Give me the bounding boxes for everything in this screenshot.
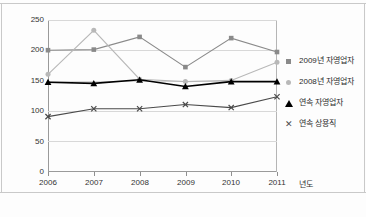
plot-right-rule	[276, 20, 277, 172]
legend-label-2008: 2008년 자영업자	[299, 77, 354, 87]
y-axis-line	[48, 20, 49, 172]
y-tick-250: 250	[31, 16, 44, 24]
square-marker-icon	[282, 55, 296, 67]
y-tick-0: 0	[40, 168, 44, 176]
x-tick-mark-2011	[277, 172, 278, 176]
triangle-marker-icon	[282, 97, 296, 109]
legend-item-continuous-regular[interactable]: ✕ 연속 상용직	[282, 113, 366, 134]
circle-marker-icon	[282, 76, 296, 88]
gridline-100	[48, 111, 277, 112]
gridline-50	[48, 141, 277, 142]
x-tick-2011: 2011	[268, 178, 285, 187]
legend-item-2008[interactable]: 2008년 자영업자	[282, 71, 366, 92]
x-tick-mark-2008	[140, 172, 141, 176]
legend-label-2009: 2009년 자영업자	[299, 56, 354, 66]
x-tick-mark-2009	[186, 172, 187, 176]
figure-border-bottom	[0, 192, 366, 193]
legend-item-continuous-self-employed[interactable]: 연속 자영업자	[282, 92, 366, 113]
legend-label-continuous-regular: 연속 상용직	[299, 119, 336, 129]
y-tick-200: 200	[31, 46, 44, 54]
x-tick-2006: 2006	[39, 178, 57, 187]
chart-legend: 2009년 자영업자 2008년 자영업자 연속 자영업자 ✕ 연속 상용직	[282, 50, 366, 134]
plot-area	[48, 20, 277, 172]
x-axis-title: 년도	[299, 178, 313, 189]
x-tick-mark-2010	[231, 172, 232, 176]
figure-border-left	[1, 3, 2, 193]
chart-figure: 250 200 150 100 50 0 2006 2007 2008 2009…	[0, 0, 366, 217]
x-tick-2007: 2007	[85, 178, 103, 187]
gridline-150	[48, 81, 277, 82]
x-marker-icon: ✕	[282, 118, 296, 130]
y-tick-50: 50	[35, 138, 44, 146]
legend-label-continuous-self-employed: 연속 자영업자	[299, 98, 343, 108]
x-tick-mark-2006	[48, 172, 49, 176]
y-tick-100: 100	[31, 107, 44, 115]
gridline-250	[48, 20, 277, 21]
x-tick-2010: 2010	[222, 178, 240, 187]
x-tick-2008: 2008	[131, 178, 149, 187]
x-tick-2009: 2009	[177, 178, 195, 187]
y-tick-150: 150	[31, 77, 44, 85]
figure-border-top	[0, 3, 366, 4]
x-tick-mark-2007	[94, 172, 95, 176]
gridline-200	[48, 50, 277, 51]
legend-item-2009[interactable]: 2009년 자영업자	[282, 50, 366, 71]
x-axis-line	[48, 171, 277, 172]
